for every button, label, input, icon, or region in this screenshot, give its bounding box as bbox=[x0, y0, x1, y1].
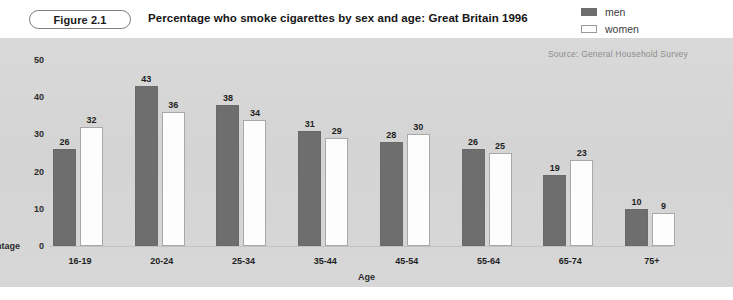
x-tick-label-35-44: 35-44 bbox=[297, 256, 353, 266]
plot-area: 0 10 20 30 40 50 centage 263216-19433620… bbox=[0, 38, 733, 287]
x-axis-title: Age bbox=[0, 272, 733, 282]
bar-women-75+: 9 bbox=[652, 213, 675, 246]
bar-men-16-19: 26 bbox=[53, 149, 76, 246]
bar-group: 383425-34 bbox=[215, 56, 271, 246]
bar-value-label: 19 bbox=[550, 163, 560, 173]
bar-women-25-34: 34 bbox=[243, 120, 266, 246]
legend-item-women: women bbox=[581, 22, 681, 36]
bar-value-label: 43 bbox=[141, 74, 151, 84]
x-tick-label-75+: 75+ bbox=[624, 256, 680, 266]
bar-group: 192365-74 bbox=[542, 56, 598, 246]
y-axis-title: centage bbox=[0, 241, 20, 251]
bar-value-label: 9 bbox=[661, 201, 666, 211]
bar-group: 283045-54 bbox=[379, 56, 435, 246]
bar-women-35-44: 29 bbox=[325, 138, 348, 246]
legend-label-men: men bbox=[605, 6, 625, 18]
bar-group: 312935-44 bbox=[297, 56, 353, 246]
bar-value-label: 26 bbox=[468, 137, 478, 147]
bar-value-label: 38 bbox=[223, 93, 233, 103]
bar-women-65-74: 23 bbox=[570, 160, 593, 246]
x-tick-label-20-24: 20-24 bbox=[134, 256, 190, 266]
bar-value-label: 23 bbox=[577, 148, 587, 158]
legend: men women bbox=[581, 5, 681, 39]
bar-men-20-24: 43 bbox=[135, 86, 158, 246]
bar-men-65-74: 19 bbox=[543, 175, 566, 246]
bar-group: 263216-19 bbox=[52, 56, 108, 246]
plot-panel: Source: General Household Survey 0 10 20… bbox=[0, 38, 733, 287]
y-tick-20: 20 bbox=[22, 167, 44, 177]
bar-value-label: 30 bbox=[413, 122, 423, 132]
bar-women-55-64: 25 bbox=[489, 153, 512, 246]
x-tick-label-25-34: 25-34 bbox=[215, 256, 271, 266]
bar-value-label: 36 bbox=[168, 100, 178, 110]
legend-label-women: women bbox=[605, 23, 639, 35]
y-tick-40: 40 bbox=[22, 92, 44, 102]
y-tick-0: 0 bbox=[22, 241, 44, 251]
y-axis-ticks: 0 10 20 30 40 50 bbox=[22, 38, 44, 287]
bar-value-label: 34 bbox=[250, 108, 260, 118]
bar-value-label: 10 bbox=[631, 197, 641, 207]
bar-value-label: 29 bbox=[332, 126, 342, 136]
bar-women-45-54: 30 bbox=[407, 134, 430, 246]
figure-number-label: Figure 2.1 bbox=[54, 14, 107, 26]
bar-men-35-44: 31 bbox=[298, 131, 321, 246]
bar-women-20-24: 36 bbox=[162, 112, 185, 246]
y-tick-50: 50 bbox=[22, 55, 44, 65]
bar-groups: 263216-19433620-24383425-34312935-442830… bbox=[52, 38, 670, 287]
bar-value-label: 32 bbox=[86, 115, 96, 125]
bar-men-75+: 10 bbox=[625, 209, 648, 246]
bar-group: 433620-24 bbox=[134, 56, 190, 246]
bar-value-label: 26 bbox=[59, 137, 69, 147]
bar-value-label: 28 bbox=[386, 130, 396, 140]
legend-swatch-men-icon bbox=[581, 8, 597, 16]
legend-item-men: men bbox=[581, 5, 681, 19]
x-tick-label-16-19: 16-19 bbox=[52, 256, 108, 266]
figure-header: Figure 2.1 Percentage who smoke cigarett… bbox=[0, 0, 733, 38]
x-tick-label-65-74: 65-74 bbox=[542, 256, 598, 266]
bar-value-label: 25 bbox=[495, 141, 505, 151]
page-title: Percentage who smoke cigarettes by sex a… bbox=[148, 12, 528, 24]
bar-men-45-54: 28 bbox=[380, 142, 403, 246]
figure-container: Figure 2.1 Percentage who smoke cigarett… bbox=[0, 0, 733, 300]
y-tick-10: 10 bbox=[22, 204, 44, 214]
figure-number-badge: Figure 2.1 bbox=[29, 10, 131, 29]
bar-group: 10975+ bbox=[624, 56, 680, 246]
bar-men-25-34: 38 bbox=[216, 105, 239, 246]
y-tick-30: 30 bbox=[22, 129, 44, 139]
legend-swatch-women-icon bbox=[581, 25, 597, 33]
bar-women-16-19: 32 bbox=[80, 127, 103, 246]
bar-group: 262555-64 bbox=[461, 56, 517, 246]
bar-value-label: 31 bbox=[305, 119, 315, 129]
x-tick-label-55-64: 55-64 bbox=[461, 256, 517, 266]
x-tick-label-45-54: 45-54 bbox=[379, 256, 435, 266]
bar-men-55-64: 26 bbox=[462, 149, 485, 246]
